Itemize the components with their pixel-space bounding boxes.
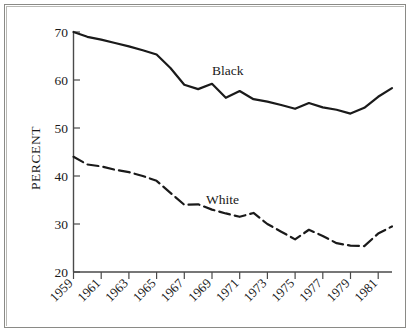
x-tick-label: 1979 [324, 276, 353, 305]
y-tick-label: 40 [55, 169, 69, 184]
x-tick-label: 1969 [185, 276, 214, 305]
x-tick-labels: 1959 1961 1963 1965 1967 1969 1971 1973 … [47, 275, 381, 304]
series-label-white: White [206, 192, 239, 207]
x-tick-label: 1973 [241, 276, 270, 305]
x-tick-label: 1965 [130, 276, 159, 305]
y-tick-marks [74, 32, 81, 272]
x-tick-label: 1959 [47, 276, 76, 305]
series-label-black: Black [212, 63, 244, 78]
y-tick-label: 70 [55, 25, 69, 40]
line-chart: PERCENT 70 60 50 40 30 20 1959 1961 [0, 0, 413, 335]
y-tick-label: 30 [55, 217, 69, 232]
x-tick-label: 1961 [74, 276, 103, 305]
x-tick-label: 1967 [157, 275, 186, 304]
x-tick-label: 1971 [213, 276, 242, 305]
y-tick-label: 60 [55, 73, 69, 88]
x-tick-label: 1981 [351, 276, 380, 305]
x-tick-label: 1975 [268, 276, 297, 305]
x-tick-label: 1977 [296, 275, 325, 304]
x-tick-label: 1963 [102, 276, 131, 305]
y-axis-title: PERCENT [28, 126, 43, 190]
y-tick-labels: 70 60 50 40 30 20 [55, 25, 69, 280]
y-tick-label: 50 [55, 121, 69, 136]
